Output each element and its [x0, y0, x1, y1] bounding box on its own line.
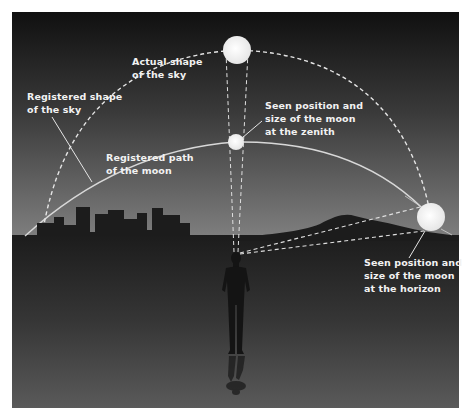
- actual-moon-zenith: [223, 36, 251, 64]
- label-registered-sky: Registered shape of the sky: [27, 90, 122, 116]
- label-actual-sky: Actual shape of the sky: [132, 55, 203, 81]
- label-zenith-moon: Seen position and size of the moon at th…: [265, 99, 363, 138]
- seen-moon-zenith: [228, 134, 244, 150]
- label-horizon-moon: Seen position and size of the moon at th…: [364, 256, 462, 295]
- label-registered-path: Registered path of the moon: [106, 151, 194, 177]
- moon-illusion-diagram: [0, 0, 472, 415]
- seen-moon-horizon: [417, 203, 445, 231]
